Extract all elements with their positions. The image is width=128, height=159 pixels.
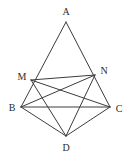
segment-a-b — [21, 22, 66, 107]
segment-layer — [21, 22, 110, 136]
vertex-label-d: D — [62, 143, 69, 153]
vertex-label-m: M — [18, 72, 27, 82]
segment-m-d — [31, 80, 66, 136]
vertex-label-c: C — [116, 104, 123, 114]
vertex-label-a: A — [62, 7, 69, 17]
segment-b-d — [21, 107, 66, 136]
geometry-figure: ABCDMN — [0, 0, 128, 159]
vertex-label-b: B — [9, 103, 16, 113]
vertex-label-n: N — [100, 66, 107, 76]
